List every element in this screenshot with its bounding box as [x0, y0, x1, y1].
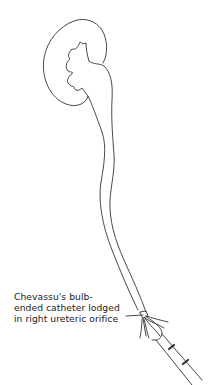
catheter-annotation: Chevassu's bulb- ended catheter lodged i… — [14, 291, 120, 324]
annotation-line-3: in right ureteric orifice — [14, 313, 120, 324]
ureter-right-wall — [89, 61, 146, 312]
renal-calyces — [66, 42, 89, 96]
cystoscope-shaft — [156, 334, 202, 385]
kidney-outline — [43, 19, 138, 310]
cystoscope-marking-1 — [169, 345, 174, 349]
annotation-line-2: ended catheter lodged — [14, 302, 120, 313]
annotation-line-1: Chevassu's bulb- — [14, 291, 120, 302]
orifice-folds — [140, 316, 168, 338]
annotation-leader-line — [126, 315, 143, 316]
kidney-ureter-diagram — [0, 0, 218, 385]
cystoscope-tip — [145, 317, 162, 340]
